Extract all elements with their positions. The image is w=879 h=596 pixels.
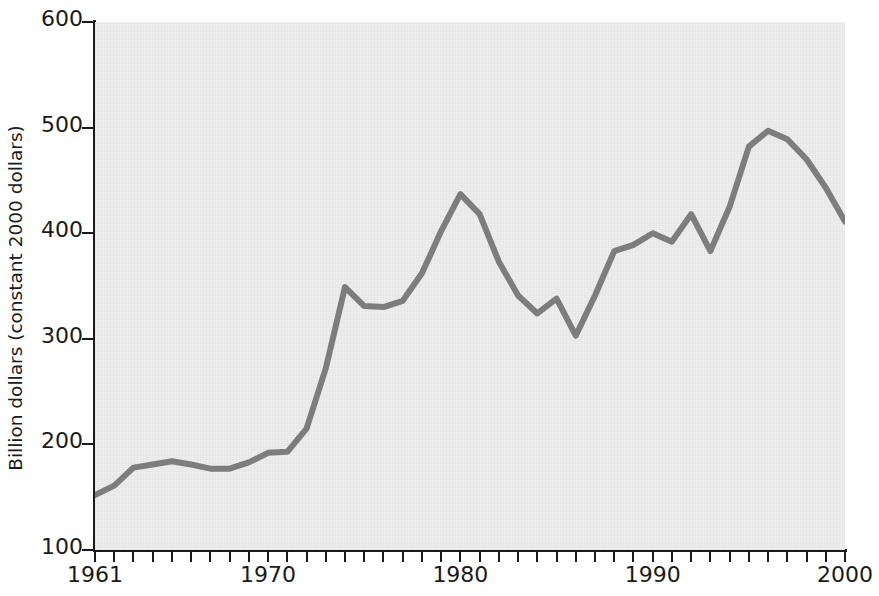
- x-axis-tick: [709, 551, 711, 562]
- x-axis-tick: [632, 551, 634, 562]
- x-axis-tick: [575, 551, 577, 562]
- x-axis-tick: [306, 551, 308, 562]
- x-axis-tick: [113, 551, 115, 562]
- x-axis-tick-label: 1980: [400, 562, 520, 587]
- x-axis-tick: [748, 551, 750, 562]
- x-axis-tick: [267, 551, 269, 562]
- x-axis-tick: [440, 551, 442, 562]
- chart-figure: Billion dollars (constant 2000 dollars) …: [0, 0, 879, 596]
- x-axis-tick: [402, 551, 404, 562]
- x-axis-tick: [767, 551, 769, 562]
- y-axis-title: Billion dollars (constant 2000 dollars): [0, 0, 30, 596]
- x-axis-tick: [459, 551, 461, 562]
- x-axis-tick: [786, 551, 788, 562]
- y-axis-tick: [82, 127, 94, 129]
- x-axis-tick: [825, 551, 827, 562]
- x-axis-tick: [190, 551, 192, 562]
- x-axis-tick: [652, 551, 654, 562]
- plot-area: [95, 22, 845, 550]
- y-axis-tick: [82, 443, 94, 445]
- x-axis-tick-label: 2000: [785, 562, 879, 587]
- x-axis-tick: [229, 551, 231, 562]
- x-axis-tick: [479, 551, 481, 562]
- x-axis-tick: [517, 551, 519, 562]
- y-axis-tick: [82, 338, 94, 340]
- x-axis-tick: [729, 551, 731, 562]
- x-axis-tick: [209, 551, 211, 562]
- y-axis-tick-label: 200: [11, 428, 83, 453]
- y-axis-tick-label: 400: [11, 217, 83, 242]
- x-axis-tick: [806, 551, 808, 562]
- x-axis-tick: [286, 551, 288, 562]
- x-axis-tick: [671, 551, 673, 562]
- y-axis-tick: [82, 21, 94, 23]
- x-axis-tick-label: 1990: [593, 562, 713, 587]
- x-axis-tick: [152, 551, 154, 562]
- x-axis-tick: [498, 551, 500, 562]
- x-axis-tick-label: 1970: [208, 562, 328, 587]
- y-axis-tick-label: 500: [11, 112, 83, 137]
- x-axis-tick: [94, 551, 96, 562]
- x-axis-tick: [363, 551, 365, 562]
- y-axis-tick-label: 600: [11, 6, 83, 31]
- x-axis-tick: [613, 551, 615, 562]
- x-axis-tick: [171, 551, 173, 562]
- y-axis-tick: [82, 232, 94, 234]
- x-axis-tick: [421, 551, 423, 562]
- x-axis-tick: [344, 551, 346, 562]
- x-axis-tick: [248, 551, 250, 562]
- x-axis-tick: [690, 551, 692, 562]
- x-axis-tick: [536, 551, 538, 562]
- x-axis-tick: [844, 551, 846, 562]
- y-axis-tick-label: 100: [11, 534, 83, 559]
- x-axis-tick: [594, 551, 596, 562]
- x-axis-tick: [325, 551, 327, 562]
- data-series-line: [95, 22, 845, 550]
- y-axis-tick-label: 300: [11, 323, 83, 348]
- x-axis-tick: [382, 551, 384, 562]
- x-axis-tick: [132, 551, 134, 562]
- x-axis-tick-label: 1961: [35, 562, 155, 587]
- x-axis-tick: [556, 551, 558, 562]
- y-axis-tick: [82, 549, 94, 551]
